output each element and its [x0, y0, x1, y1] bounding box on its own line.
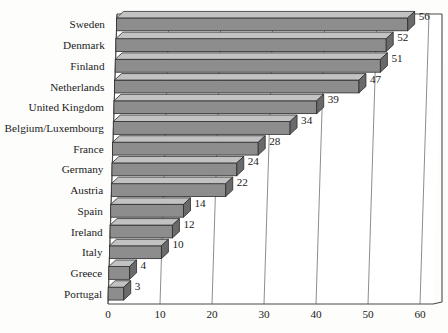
value-label: 24: [248, 155, 260, 167]
bar-top-face: [114, 94, 324, 101]
x-tick-60: 60: [414, 308, 426, 320]
value-label: 22: [237, 176, 248, 188]
value-label: 4: [141, 259, 147, 271]
x-tick-10: 10: [154, 308, 166, 320]
bar-front-face: [110, 225, 172, 238]
value-label: 56: [419, 10, 431, 22]
x-tick-0: 0: [105, 308, 111, 320]
value-label: 39: [328, 93, 340, 105]
bar-top-face: [112, 156, 244, 163]
value-label: 10: [172, 238, 184, 250]
value-label: 14: [194, 197, 206, 209]
bar-chart: SwedenDenmarkFinlandNetherlandsUnited Ki…: [0, 0, 448, 333]
bar-italy: [109, 239, 168, 258]
bar-top-face: [111, 198, 191, 205]
bar-front-face: [116, 18, 407, 31]
bar-greece: [109, 260, 137, 279]
bar-denmark: [116, 32, 393, 51]
bar-top-face: [113, 115, 297, 122]
value-label: 12: [183, 218, 194, 230]
category-label: Netherlands: [50, 81, 104, 93]
bar-front-face: [108, 287, 124, 300]
bar-spain: [111, 198, 191, 217]
value-label: 3: [135, 280, 141, 292]
value-label: 52: [397, 31, 408, 43]
x-tick-30: 30: [258, 308, 270, 320]
value-label: 47: [370, 73, 382, 85]
category-label: France: [73, 143, 103, 155]
bar-united-kingdom: [114, 94, 324, 113]
chart-canvas: SwedenDenmarkFinlandNetherlandsUnited Ki…: [0, 0, 448, 333]
bar-austria: [111, 177, 232, 196]
bar-top-face: [115, 53, 387, 60]
bar-sweden: [116, 11, 414, 30]
category-label: Spain: [77, 205, 103, 217]
x-tick-40: 40: [310, 308, 322, 320]
bar-front-face: [115, 80, 359, 93]
category-label: United Kingdom: [29, 101, 105, 113]
category-label: Ireland: [71, 226, 103, 238]
value-label: 28: [269, 135, 281, 147]
x-tick-50: 50: [362, 308, 374, 320]
category-label: Italy: [82, 246, 103, 258]
bar-france: [113, 136, 266, 155]
bar-top-face: [116, 11, 414, 18]
bar-front-face: [109, 246, 161, 259]
value-label: 51: [391, 52, 402, 64]
bar-front-face: [109, 267, 130, 280]
bar-finland: [115, 53, 387, 72]
category-label: Austria: [70, 184, 103, 196]
category-label: Germany: [62, 163, 104, 175]
bar-front-face: [114, 101, 317, 114]
bar-top-face: [115, 74, 366, 81]
bar-front-face: [111, 184, 225, 197]
bar-top-face: [111, 177, 232, 184]
category-label: Finland: [70, 60, 105, 72]
bar-front-face: [111, 204, 184, 217]
category-label: Sweden: [70, 18, 106, 30]
bar-front-face: [115, 59, 380, 72]
bar-front-face: [116, 39, 386, 52]
category-label: Denmark: [63, 39, 105, 51]
bar-top-face: [109, 239, 168, 246]
bar-netherlands: [115, 74, 366, 93]
value-label: 34: [301, 114, 313, 126]
bar-ireland: [110, 219, 179, 238]
bar-front-face: [113, 142, 259, 155]
bar-top-face: [116, 32, 393, 39]
bar-portugal: [108, 281, 131, 300]
category-label: Portugal: [64, 288, 102, 300]
bar-front-face: [113, 122, 290, 135]
x-tick-20: 20: [206, 308, 218, 320]
bar-belgium-luxembourg: [113, 115, 297, 134]
bar-top-face: [113, 136, 266, 143]
category-label: Greece: [71, 267, 103, 279]
bar-top-face: [110, 219, 179, 226]
bar-front-face: [112, 163, 237, 176]
category-label: Belgium/Luxembourg: [5, 122, 105, 134]
bar-germany: [112, 156, 244, 175]
